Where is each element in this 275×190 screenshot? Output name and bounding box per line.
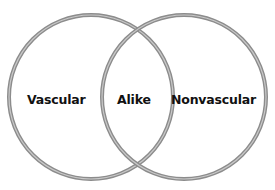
- label-nonvascular: Nonvascular: [171, 94, 256, 107]
- label-vascular: Vascular: [27, 94, 85, 107]
- label-alike: Alike: [117, 94, 151, 107]
